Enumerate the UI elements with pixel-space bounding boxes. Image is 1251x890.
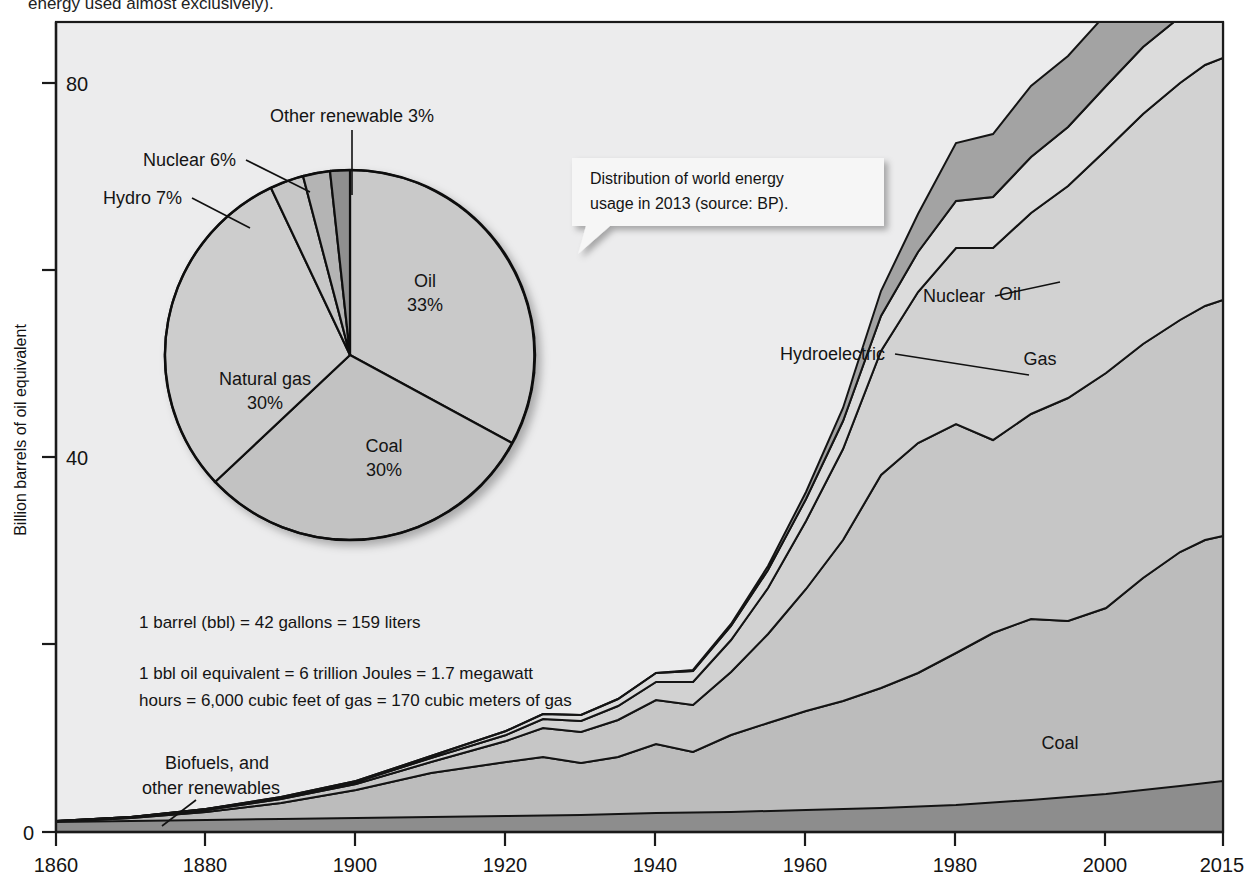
area-label-coal: Coal xyxy=(1041,733,1078,753)
area-label-gas: Gas xyxy=(1023,349,1056,369)
x-tick-label-1900: 1900 xyxy=(333,854,378,876)
area-label-biofuels-line2: other renewables xyxy=(142,778,280,798)
pie-label-hydro: Hydro 7% xyxy=(103,188,182,208)
pie-label-coal: Coal xyxy=(365,436,402,456)
x-tick-label-1980: 1980 xyxy=(933,854,978,876)
x-axis-ticks: 1860 1880 1900 1920 1940 1960 1980 2000 … xyxy=(34,832,1245,876)
pie-label-nuclear: Nuclear 6% xyxy=(143,150,236,170)
figure-root: energy used almost exclusively). xyxy=(0,0,1251,890)
inset-pie-chart xyxy=(165,170,535,540)
pie-label-coal-pct: 30% xyxy=(366,460,402,480)
pie-label-oil: Oil xyxy=(414,271,436,291)
callout-line-2: usage in 2013 (source: BP). xyxy=(590,195,788,212)
note-line-3: hours = 6,000 cubic feet of gas = 170 cu… xyxy=(139,691,572,710)
x-tick-label-1960: 1960 xyxy=(783,854,828,876)
pie-label-natural-gas: Natural gas xyxy=(219,369,311,389)
x-tick-label-2015: 2015 xyxy=(1200,854,1245,876)
pie-label-oil-pct: 33% xyxy=(407,295,443,315)
callout-line-1: Distribution of world energy xyxy=(590,170,784,187)
area-label-hydroelectric: Hydroelectric xyxy=(780,344,885,364)
area-label-nuclear: Nuclear xyxy=(923,286,985,306)
y-tick-label-80: 80 xyxy=(66,73,88,95)
y-tick-label-0: 0 xyxy=(23,822,34,844)
y-axis-title: Billion barrels of oil equivalent xyxy=(12,324,29,536)
note-line-1: 1 barrel (bbl) = 42 gallons = 159 liters xyxy=(139,613,421,632)
y-tick-label-40: 40 xyxy=(66,447,88,469)
note-line-2: 1 bbl oil equivalent = 6 trillion Joules… xyxy=(139,664,533,683)
x-tick-label-1920: 1920 xyxy=(483,854,528,876)
x-tick-label-2000: 2000 xyxy=(1083,854,1128,876)
x-tick-label-1940: 1940 xyxy=(633,854,678,876)
energy-usage-area-chart: 0 40 80 Billion barrels of oil equivalen… xyxy=(0,0,1251,890)
area-label-biofuels-line1: Biofuels, and xyxy=(165,753,269,773)
x-tick-label-1860: 1860 xyxy=(34,854,79,876)
pie-label-other-renewable: Other renewable 3% xyxy=(270,106,434,126)
pie-label-natural-gas-pct: 30% xyxy=(247,393,283,413)
x-tick-label-1880: 1880 xyxy=(183,854,228,876)
